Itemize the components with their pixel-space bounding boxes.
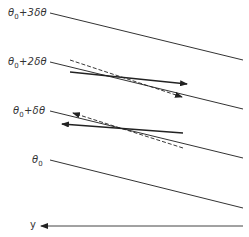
- label-theta0-plus-3dtheta: θ0+3δθ: [8, 7, 47, 21]
- label-theta0-plus-dtheta: θ0+δθ: [13, 105, 45, 119]
- contour-lines: [50, 13, 243, 208]
- dashed-vector-arrow-1: [70, 60, 182, 97]
- vector-arrows: [62, 60, 187, 148]
- contour-line-2: [50, 111, 243, 158]
- dashed-vector-arrow-3: [73, 113, 183, 148]
- y-axis-label: y: [30, 219, 36, 230]
- label-theta0-plus-2dtheta: θ0+2δθ: [8, 56, 47, 70]
- contour-line-3: [50, 160, 243, 208]
- contour-line-0: [50, 13, 243, 60]
- label-theta0: θ0: [32, 154, 43, 168]
- solid-vector-arrow-0: [70, 72, 187, 84]
